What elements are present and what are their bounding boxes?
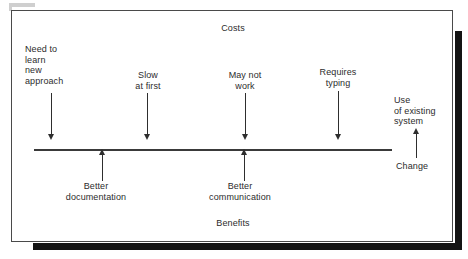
diagram-page: Costs Benefits Need to learn new approac… <box>0 0 468 259</box>
benefit-label-better-communication: Better communication <box>195 181 285 202</box>
cost-arrow-may-not-work <box>241 93 250 140</box>
benefit-arrow-better-documentation <box>98 149 107 181</box>
benefits-axis-label: Benefits <box>12 218 454 229</box>
diagram-frame: Costs Benefits Need to learn new approac… <box>11 10 453 242</box>
cost-arrow-need-to-learn <box>47 93 56 140</box>
costs-axis-label: Costs <box>12 23 454 34</box>
side-note-arrow-up <box>412 128 421 158</box>
equilibrium-line <box>34 149 392 151</box>
cost-label-slow-at-first: Slow at first <box>118 70 178 91</box>
benefit-arrow-better-communication <box>240 149 249 181</box>
cost-label-need-to-learn: Need to learn new approach <box>25 44 63 86</box>
cost-arrow-requires-typing <box>334 91 343 140</box>
cost-label-may-not-work: May not work <box>213 70 277 91</box>
frame-shadow-right <box>455 31 462 247</box>
side-note-bottom-label: Change <box>396 161 428 172</box>
frame-shadow-bottom <box>33 243 462 250</box>
benefit-label-better-documentation: Better documentation <box>53 181 139 202</box>
side-note-top-label: Use of existing system <box>394 95 436 127</box>
cost-arrow-slow-at-first <box>143 93 152 140</box>
cost-label-requires-typing: Requires typing <box>306 67 370 88</box>
scan-artifact <box>9 3 35 7</box>
